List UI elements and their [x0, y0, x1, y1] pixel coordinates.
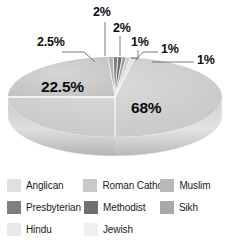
- legend-label: Presbyterian: [26, 202, 81, 213]
- legend-swatch-icon: [84, 223, 98, 236]
- chart-plot-area: 68% 22.5% 2.5% 2% 2% 1% 1% 1%: [0, 0, 229, 166]
- data-label-methodist: 2%: [113, 22, 131, 35]
- legend-swatch-icon: [160, 179, 174, 192]
- legend-label: Muslim: [179, 180, 210, 191]
- legend-swatch-icon: [7, 201, 21, 214]
- legend-label: Anglican: [26, 180, 64, 191]
- legend-swatch-icon: [7, 223, 21, 236]
- legend-item-empty: [160, 218, 225, 240]
- data-label-jewish: 1%: [197, 54, 215, 67]
- legend-label: Jewish: [103, 224, 133, 235]
- legend-row: Presbyterian Methodist Sikh: [7, 196, 225, 218]
- legend-label: Sikh: [179, 202, 198, 213]
- legend-item-muslim[interactable]: Muslim: [160, 174, 225, 196]
- legend-item-hindu[interactable]: Hindu: [7, 218, 84, 240]
- data-label-hindu: 1%: [161, 43, 179, 56]
- legend-swatch-icon: [84, 201, 98, 214]
- legend-swatch-icon: [7, 179, 21, 192]
- data-label-muslim: 2.5%: [37, 36, 65, 49]
- data-label-sikh: 1%: [131, 36, 149, 49]
- data-label-roman-catholic: 22.5%: [41, 79, 84, 95]
- legend-item-presbyterian[interactable]: Presbyterian: [7, 196, 84, 218]
- legend-label: Hindu: [26, 224, 52, 235]
- chart-legend: Anglican Roman Catholic Muslim Presbyter…: [0, 168, 229, 246]
- legend-row: Anglican Roman Catholic Muslim: [7, 174, 225, 196]
- legend-item-roman-catholic[interactable]: Roman Catholic: [83, 174, 160, 196]
- legend-item-anglican[interactable]: Anglican: [7, 174, 83, 196]
- legend-swatch-icon: [160, 201, 174, 214]
- data-label-anglican: 68%: [131, 100, 161, 116]
- legend-swatch-icon: [83, 179, 97, 192]
- data-label-presbyterian: 2%: [93, 6, 111, 19]
- legend-item-sikh[interactable]: Sikh: [160, 196, 225, 218]
- legend-label: Methodist: [103, 202, 145, 213]
- legend-item-methodist[interactable]: Methodist: [84, 196, 160, 218]
- pie-chart-screenshot: 68% 22.5% 2.5% 2% 2% 1% 1% 1% Anglican R…: [0, 0, 229, 246]
- legend-row: Hindu Jewish: [7, 218, 225, 240]
- legend-item-jewish[interactable]: Jewish: [84, 218, 160, 240]
